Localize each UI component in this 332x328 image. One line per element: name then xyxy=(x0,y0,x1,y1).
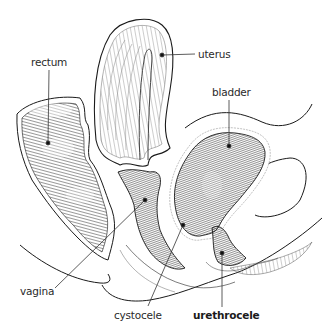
pelvis-illustration xyxy=(0,0,332,328)
label-rectum: rectum xyxy=(31,56,67,68)
bladder-shape xyxy=(170,128,271,241)
label-cystocele: cystocele xyxy=(114,309,162,321)
anatomy-diagram: rectum uterus bladder vagina cystocele u… xyxy=(0,0,332,328)
label-urethrocele: urethrocele xyxy=(193,309,260,321)
label-uterus: uterus xyxy=(198,48,230,60)
label-bladder: bladder xyxy=(212,86,251,98)
uterus-shape xyxy=(94,19,172,166)
label-vagina: vagina xyxy=(20,285,54,297)
